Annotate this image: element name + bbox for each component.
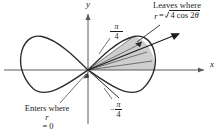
equals-sign: = <box>159 10 164 20</box>
angle-denominator-neg: 4 <box>115 110 122 118</box>
y-axis-label: y <box>86 0 90 9</box>
angle-minus-sign: − <box>110 106 115 114</box>
enters-equation: r= 0 <box>8 113 86 129</box>
enters-where-annotation: Enters where r= 0 <box>8 104 86 129</box>
angle-numerator-neg: π <box>115 101 122 110</box>
r-symbol: r <box>154 10 157 20</box>
y-axis-arrowhead <box>85 14 90 20</box>
ray-theta-minus-pi-over-4 <box>88 70 119 98</box>
leader-line-leaves <box>137 25 160 42</box>
angle-denominator: 4 <box>110 32 123 40</box>
leaves-where-text: Leaves where <box>137 1 217 10</box>
radical-tick-icon <box>165 11 169 18</box>
enters-equals-zero: = 0 <box>10 122 86 129</box>
angle-numerator: π <box>110 23 123 32</box>
leaves-where-annotation: Leaves where r=4 cos 2θ <box>137 1 217 20</box>
radicand-text: 4 cos 2 <box>170 10 194 20</box>
angle-fraction-stack: π 4 <box>115 101 122 119</box>
angle-label-negative-pi-over-4: − π 4 <box>107 101 125 119</box>
x-axis-arrowhead <box>198 67 204 72</box>
leader-line-enters <box>60 74 86 103</box>
radicand: 4 cos 2θ <box>169 10 199 20</box>
square-root-symbol: 4 cos 2θ <box>165 10 199 20</box>
leaves-equation: r=4 cos 2θ <box>137 10 217 20</box>
angle-label-pi-over-4: π 4 <box>110 23 123 41</box>
theta-symbol: θ <box>195 10 199 20</box>
x-axis-label: x <box>210 60 214 69</box>
lemniscate-left-lobe <box>21 36 88 92</box>
leader-line-lower-angle <box>104 88 112 99</box>
